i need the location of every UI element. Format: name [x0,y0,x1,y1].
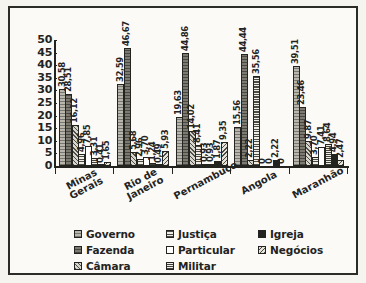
y-tick-label: 40 [28,61,52,69]
x-group-separator [347,168,348,174]
x-group-separator [113,168,114,174]
legend-swatch-icon [74,262,82,270]
bar-value-label: 0 [265,158,273,164]
bar-value-label: 19,63 [174,90,182,115]
y-tick-label: 0 [28,162,52,170]
x-category-label: Pernambuco [172,165,230,202]
bar-value-label: 44,86 [181,26,189,51]
y-tick-label: 45 [28,49,52,57]
bar-value-label: 16,12 [70,99,78,124]
legend-swatch-icon [258,246,266,254]
legend-label: Igreja [270,229,304,240]
plot-area: 30,5828,5116,124,967,853,310,411,6532,59… [55,40,347,166]
legend-item-cmara[interactable]: Câmara [74,261,166,272]
bar-group: 32,5946,675,682,963,701,240,495,93 [117,40,171,166]
bar-value-label: 5,93 [161,130,169,149]
legend-item-negcios[interactable]: Negócios [258,245,319,256]
x-category-label-line: Maranhão [289,165,347,202]
legend-item-particular[interactable]: Particular [166,245,258,256]
x-group-separator [55,168,56,174]
y-tick-label: 15 [28,124,52,132]
legend-label: Justiça [178,229,217,240]
legend-swatch-icon [166,246,174,254]
legend-item-militar[interactable]: Militar [166,261,258,272]
bar-value-label: 1,65 [102,140,110,159]
legend-swatch-icon [258,230,266,238]
legend-item-igreja[interactable]: Igreja [258,229,319,240]
y-tick-mark [54,166,57,167]
bar-group: 19,6344,8614,028,410,930,931,879,35 [176,40,230,166]
legend-swatch-icon [166,230,174,238]
x-group-separator [289,168,290,174]
y-tick-label: 35 [28,74,52,82]
bar-value-label: 15,56 [233,100,241,125]
bar-value-label: 44,44 [239,27,247,52]
x-category-label: Angola [231,165,289,202]
chart-legend: GovernoJustiçaIgrejaFazendaParticularNeg… [74,226,319,274]
y-tick-label: 20 [28,112,52,120]
legend-item-governo[interactable]: Governo [74,229,166,240]
y-tick-label: 30 [28,86,52,94]
x-group-separator [230,168,231,174]
y-tick-label: 50 [28,36,52,44]
bar-value-label: 35,56 [252,50,260,75]
bar-value-label: 32,59 [116,57,124,82]
y-tick-label: 25 [28,99,52,107]
legend-swatch-icon [74,230,82,238]
legend-item-justia[interactable]: Justiça [166,229,258,240]
bar-value-label: 2,22 [245,139,253,158]
bar-value-label: 28,51 [64,67,72,92]
legend-label: Fazenda [86,245,134,256]
y-axis-tick-labels: 50454035302520151050 [24,40,52,167]
chart-page: 50454035302520151050 30,5828,5116,124,96… [0,0,366,283]
legend-label: Câmara [86,261,130,272]
legend-swatch-icon [74,246,82,254]
bar-value-label: 1,87 [213,140,221,159]
x-category-label-line: Pernambuco [172,165,230,202]
bar-value-label: 9,35 [219,121,227,140]
bar-value-label: 46,67 [122,22,130,47]
legend-item-fazenda[interactable]: Fazenda [74,245,166,256]
bar-group: 39,5123,469,873,707,418,644,942,47 [293,40,347,166]
x-category-label: Maranhão [289,165,347,202]
legend-label: Particular [178,245,235,256]
bar-value-label: 23,46 [297,80,305,105]
x-category-label-line: Angola [231,165,289,202]
y-tick-label: 10 [28,137,52,145]
bar-value-label: 39,51 [291,40,299,65]
bar [253,76,260,166]
legend-label: Governo [86,229,135,240]
bar-value-label: 2,22 [271,139,279,158]
x-group-separator [172,168,173,174]
legend-label: Militar [178,261,216,272]
chart-frame: 50454035302520151050 30,5828,5116,124,96… [8,6,358,275]
y-tick-label: 5 [28,149,52,157]
bar-value-label: 8,41 [193,123,201,142]
legend-swatch-icon [166,262,174,270]
legend-label: Negócios [270,245,323,256]
bar-value-label: 0 [277,158,285,164]
bar-group: 30,5828,5116,124,967,853,310,411,65 [59,40,113,166]
bar-value-label: 2,47 [336,138,344,157]
bar-group: 15,5644,442,2235,56002,220 [234,40,288,166]
